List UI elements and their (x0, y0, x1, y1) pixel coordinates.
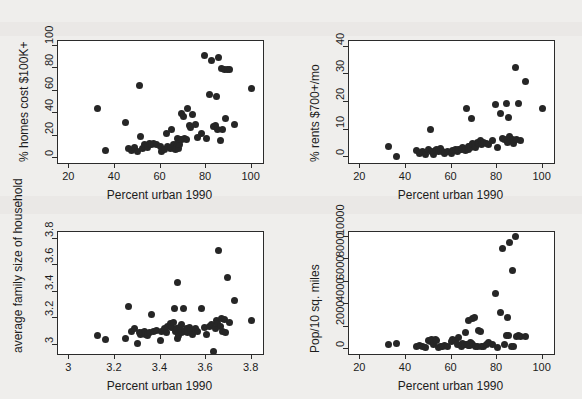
x-tick (68, 163, 69, 168)
panel-rents: 20406080100010203040Percent urban 1990% … (291, 0, 582, 199)
x-tick-label: 3.8 (243, 361, 258, 373)
y-tick (343, 281, 348, 282)
data-point (468, 115, 475, 122)
data-point (506, 239, 513, 246)
x-tick-label: 60 (153, 170, 165, 182)
plot-area-pop-density (348, 231, 555, 355)
data-point (189, 111, 196, 118)
x-tick-label: 3 (65, 361, 71, 373)
data-point (422, 344, 429, 351)
x-tick-label: 80 (490, 170, 502, 182)
data-point (512, 233, 519, 240)
data-point (393, 340, 400, 347)
data-point (512, 64, 519, 71)
y-tick (343, 236, 348, 237)
data-point (489, 137, 496, 144)
data-point (385, 341, 392, 348)
data-point (206, 91, 213, 98)
plot-area-family-size (57, 231, 264, 355)
y-tick (52, 291, 57, 292)
y-tick (52, 90, 57, 91)
x-tick (114, 354, 115, 359)
y-tick (52, 67, 57, 68)
data-point (494, 344, 501, 351)
x-tick-label: 100 (532, 170, 550, 182)
data-point (494, 144, 501, 151)
data-point (504, 314, 511, 321)
x-tick-label: 40 (108, 170, 120, 182)
x-tick-label: 100 (241, 170, 259, 182)
y-tick (343, 326, 348, 327)
data-point (231, 121, 238, 128)
panel-pop-density: 204060801000200040006000800010000Percent… (291, 199, 582, 399)
data-point (510, 343, 517, 350)
y-axis-title: average family size of household (11, 178, 25, 353)
data-point (503, 100, 510, 107)
x-tick-label: 60 (444, 170, 456, 182)
y-tick (343, 348, 348, 349)
x-tick (496, 163, 497, 168)
y-tick (343, 73, 348, 74)
y-tick (343, 303, 348, 304)
x-tick (542, 354, 543, 359)
y-tick (52, 344, 57, 345)
data-point (463, 105, 470, 112)
x-tick-label: 20 (62, 170, 74, 182)
data-point (183, 136, 190, 143)
data-point (427, 126, 434, 133)
x-axis-title: Percent urban 1990 (107, 379, 212, 393)
data-point (522, 78, 529, 85)
data-point (102, 336, 109, 343)
x-tick (68, 354, 69, 359)
x-tick-label: 20 (353, 361, 365, 373)
data-point (505, 114, 512, 121)
data-point (136, 82, 143, 89)
x-tick (542, 163, 543, 168)
y-tick (52, 317, 57, 318)
x-tick-label: 40 (399, 361, 411, 373)
x-tick (451, 163, 452, 168)
x-tick-label: 40 (399, 170, 411, 182)
data-point (224, 274, 231, 281)
y-tick (52, 135, 57, 136)
data-point (522, 333, 529, 340)
x-tick-label: 60 (444, 361, 456, 373)
y-tick (343, 156, 348, 157)
data-point (517, 137, 524, 144)
y-tick (343, 101, 348, 102)
x-tick (160, 354, 161, 359)
scatter-matrix-figure: 20406080100020406080100Percent urban 199… (0, 0, 582, 399)
panel-family-size: 33.23.43.63.833.23.43.63.8Percent urban … (0, 199, 291, 399)
data-point (215, 54, 222, 61)
y-tick (343, 46, 348, 47)
x-tick-label: 3.4 (152, 361, 167, 373)
data-point (203, 331, 210, 338)
data-point (102, 147, 109, 154)
data-point (180, 305, 187, 312)
x-tick-label: 100 (532, 361, 550, 373)
x-tick (251, 163, 252, 168)
data-point (505, 332, 512, 339)
data-point (168, 126, 175, 133)
x-axis-title: Percent urban 1990 (398, 379, 503, 393)
x-tick (405, 163, 406, 168)
data-point (203, 135, 210, 142)
data-point (94, 332, 101, 339)
panel-homes-cost: 20406080100020406080100Percent urban 199… (0, 0, 291, 199)
y-tick (52, 112, 57, 113)
data-point (217, 137, 224, 144)
plot-area-homes-cost (57, 40, 264, 164)
data-point (497, 309, 504, 316)
data-point (134, 340, 141, 347)
y-tick (343, 129, 348, 130)
data-point (171, 305, 178, 312)
x-tick-label: 3.6 (197, 361, 212, 373)
x-tick-label: 80 (199, 170, 211, 182)
data-point (393, 153, 400, 160)
data-point (226, 319, 233, 326)
data-point (477, 328, 484, 335)
x-tick (405, 354, 406, 359)
data-point (385, 143, 392, 150)
plot-area-rents (348, 40, 555, 164)
x-tick-label: 80 (490, 361, 502, 373)
